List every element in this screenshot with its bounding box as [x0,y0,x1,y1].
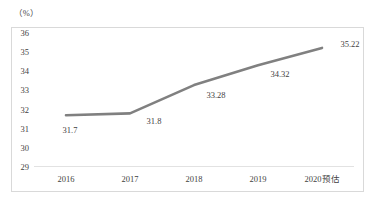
plot-area: 2930313233343536 20162017201820192020预估 … [34,33,354,167]
x-axis-tick-label: 2017 [122,174,139,184]
y-axis-tick-label: 35 [21,48,30,57]
x-axis-tick-label: 2016 [58,174,75,184]
x-axis-tick-label: 2018 [186,174,203,184]
data-point-label: 34.32 [270,69,289,79]
y-axis-unit-label: （%） [14,8,38,19]
x-axis-tick-label: 2019 [250,174,267,184]
line-series-path [66,48,322,115]
data-point-label: 33.28 [206,90,225,100]
data-point-label: 31.7 [63,125,78,135]
chart-root: （%） 2930313233343536 2016201720182019202… [0,0,387,206]
y-axis-tick-label: 36 [21,29,30,38]
y-axis-tick-label: 32 [21,105,30,114]
data-point-label: 31.8 [147,116,162,126]
y-axis-tick-label: 33 [21,86,30,95]
x-axis-tick-label: 2020预估 [305,174,340,184]
data-point-label: 35.22 [340,39,359,49]
y-axis-tick-label: 31 [21,124,30,133]
line-series-svg [34,33,354,167]
y-axis-tick-label: 30 [21,143,30,152]
y-axis-tick-label: 34 [21,67,30,76]
y-axis-tick-label: 29 [21,163,30,172]
